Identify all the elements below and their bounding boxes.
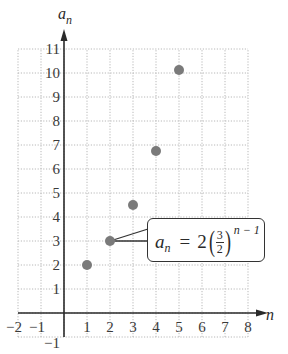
x-tick-label: 5 (175, 319, 183, 335)
x-tick-label: 3 (129, 319, 137, 335)
y-axis-label-main: a (58, 5, 66, 22)
y-tick-label: −1 (44, 335, 60, 351)
tick-labels: −2−112345678−11234567891011 (6, 41, 252, 351)
fraction-denominator: 2 (217, 243, 223, 256)
y-tick-label: 11 (46, 41, 60, 57)
y-tick-label: 1 (53, 281, 61, 297)
x-tick-label: 7 (221, 319, 229, 335)
y-tick-label: 4 (53, 209, 61, 225)
data-point (82, 260, 92, 270)
y-tick-label: 8 (53, 113, 61, 129)
formula-equals: = (180, 231, 191, 253)
x-tick-label: 2 (106, 319, 114, 335)
x-tick-label: −2 (6, 319, 22, 335)
y-axis-arrow-icon (61, 29, 68, 41)
y-tick-label: 2 (53, 257, 61, 273)
formula-callout: an = 2 ( 3 2 ) n − 1 (147, 218, 265, 262)
formula-exponent: n − 1 (234, 223, 260, 238)
y-tick-label: 6 (53, 161, 61, 177)
y-axis-label-sub: n (66, 13, 72, 27)
x-tick-label: 4 (152, 319, 160, 335)
data-point (105, 236, 115, 246)
right-paren-glyph: ) (225, 226, 231, 256)
y-tick-label: 10 (45, 65, 60, 81)
formula-lhs: a (155, 231, 165, 253)
y-tick-label: 9 (53, 89, 61, 105)
x-tick-label: 1 (83, 319, 91, 335)
y-axis-label: an (58, 5, 72, 27)
left-paren-glyph: ( (209, 226, 215, 256)
formula-lhs-sub: n (165, 241, 171, 256)
y-tick-label: 7 (53, 137, 61, 153)
leader-line-upper (110, 229, 148, 241)
x-tick-label: 8 (244, 319, 252, 335)
fraction-numerator: 3 (216, 229, 224, 243)
sequence-plot: −2−112345678−11234567891011 n an (0, 0, 288, 354)
formula: an = 2 ( 3 2 ) n − 1 (155, 227, 260, 257)
formula-coef: 2 (197, 231, 207, 253)
y-tick-label: 5 (53, 185, 61, 201)
x-axis-label: n (266, 306, 274, 323)
x-tick-label: 6 (198, 319, 206, 335)
y-tick-label: 3 (53, 233, 61, 249)
x-tick-label: −1 (29, 319, 45, 335)
data-point (151, 146, 161, 156)
data-point (174, 65, 184, 75)
callout-leader (110, 229, 148, 241)
data-point (128, 200, 138, 210)
formula-fraction: 3 2 (216, 229, 224, 256)
